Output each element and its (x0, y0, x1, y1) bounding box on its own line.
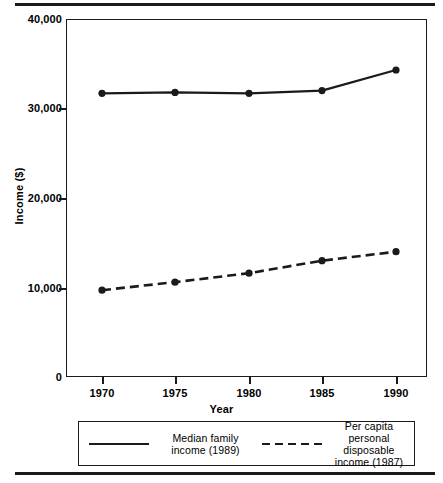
x-tick-mark-1975 (175, 377, 177, 384)
y-tick-label-0: 0 (0, 372, 62, 383)
legend-label-per-capita-income: Per capita personal disposable income (1… (324, 420, 414, 468)
y-tick-mark-30000 (59, 108, 67, 110)
x-tick-label-1980: 1980 (219, 387, 279, 399)
legend-swatch-dashed-line-icon (260, 437, 324, 451)
y-tick-label-10000: 10,000 (0, 283, 62, 294)
x-tick-mark-1980 (249, 377, 251, 384)
legend-label-line-1: Per capita (345, 420, 393, 432)
legend-label-line-2: income (1989) (171, 444, 239, 456)
x-tick-label-1990: 1990 (366, 387, 426, 399)
legend-label-median-family-income: Median family income (1989) (151, 432, 260, 456)
figure-container: 40,000 30,000 20,000 10,000 0 1970 1975 … (0, 0, 443, 483)
legend: Median family income (1989) Per capita p… (78, 421, 415, 466)
legend-swatch-solid-line-icon (87, 437, 151, 451)
y-tick-label-40000: 40,000 (0, 14, 62, 25)
plot-area-frame (66, 19, 427, 377)
x-tick-mark-1985 (322, 377, 324, 384)
x-tick-label-1975: 1975 (145, 387, 205, 399)
legend-label-line-2: personal disposable (343, 432, 394, 456)
top-rule (15, 3, 435, 6)
y-axis-title: Income ($) (13, 146, 25, 246)
legend-label-line-1: Median family (172, 432, 238, 444)
y-tick-mark-10000 (59, 288, 67, 290)
y-tick-label-20000: 20,000 (0, 193, 62, 204)
legend-label-line-3: income (1987) (335, 456, 403, 468)
y-tick-label-30000: 30,000 (0, 103, 62, 114)
legend-entry-per-capita-income: Per capita personal disposable income (1… (260, 422, 414, 465)
y-tick-mark-20000 (59, 198, 67, 200)
x-tick-label-1985: 1985 (292, 387, 352, 399)
bottom-rule (15, 472, 435, 475)
x-tick-mark-1970 (102, 377, 104, 384)
x-tick-mark-1990 (396, 377, 398, 384)
x-tick-label-1970: 1970 (72, 387, 132, 399)
legend-entry-median-family-income: Median family income (1989) (79, 422, 260, 465)
x-axis-title: Year (0, 403, 443, 415)
